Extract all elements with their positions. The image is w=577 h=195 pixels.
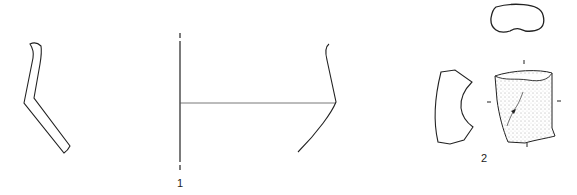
- figure-label-2: 2: [481, 152, 487, 164]
- object-front-view-2: [487, 60, 561, 147]
- figure-label-1: 1: [177, 177, 183, 189]
- vessel-section-1: [180, 33, 336, 170]
- sherd-profile-1: [24, 43, 70, 153]
- pottery-drawing-figure: 1 2: [0, 0, 577, 195]
- object-top-view-2: [491, 4, 544, 32]
- object-side-profile-2: [435, 70, 473, 144]
